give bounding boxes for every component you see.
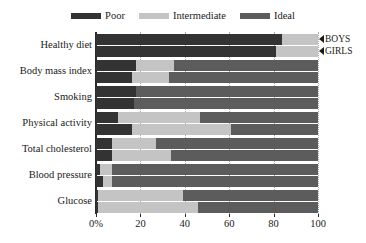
- x-axis: 0%20406080100: [96, 214, 318, 240]
- legend-label: Ideal: [274, 11, 295, 22]
- bar-segment-poor[interactable]: [96, 150, 112, 161]
- bar-boys[interactable]: [96, 86, 318, 97]
- bar-row: [96, 86, 318, 109]
- bar-row: [96, 112, 318, 135]
- bar-segment-ideal[interactable]: [156, 138, 318, 149]
- bar-segment-poor[interactable]: [96, 34, 282, 45]
- bar-girls[interactable]: [96, 72, 318, 83]
- bar-boys[interactable]: [96, 60, 318, 71]
- bar-segment-ideal[interactable]: [169, 72, 318, 83]
- bar-segment-poor[interactable]: [96, 98, 134, 109]
- category-label-healthy-diet: Healthy diet: [0, 40, 92, 51]
- annotation-girls: GIRLS: [319, 47, 352, 57]
- annotation-label: BOYS: [325, 35, 350, 45]
- bar-segment-ideal[interactable]: [174, 60, 318, 71]
- bar-row: [96, 190, 318, 213]
- bar-segment-intermediate[interactable]: [282, 34, 318, 45]
- bar-segment-ideal[interactable]: [112, 176, 318, 187]
- legend-swatch-icon: [240, 13, 270, 19]
- x-tick-mark: [274, 214, 275, 217]
- bar-segment-intermediate[interactable]: [136, 60, 174, 71]
- category-label-glucose: Glucose: [0, 196, 92, 207]
- bar-segment-intermediate[interactable]: [98, 190, 182, 201]
- category-axis-labels: Healthy dietBody mass indexSmokingPhysic…: [0, 32, 92, 214]
- plot-area: [96, 32, 318, 214]
- triangle-left-icon: [319, 35, 324, 43]
- bar-segment-ideal[interactable]: [198, 202, 318, 213]
- x-tick-label: 0%: [89, 219, 103, 230]
- category-label-total-cholesterol: Total cholesterol: [0, 144, 92, 155]
- x-tick-mark: [185, 214, 186, 217]
- category-label-body-mass-index: Body mass index: [0, 66, 92, 77]
- bar-segment-intermediate[interactable]: [112, 150, 172, 161]
- bar-segment-intermediate[interactable]: [132, 72, 170, 83]
- bar-boys[interactable]: [96, 34, 318, 45]
- legend-swatch-icon: [71, 13, 101, 19]
- bar-segment-ideal[interactable]: [183, 190, 318, 201]
- bar-segment-poor[interactable]: [96, 124, 132, 135]
- annotation-label: GIRLS: [325, 47, 352, 57]
- bar-girls[interactable]: [96, 46, 318, 57]
- bar-girls[interactable]: [96, 150, 318, 161]
- bar-boys[interactable]: [96, 138, 318, 149]
- category-label-blood-pressure: Blood pressure: [0, 170, 92, 181]
- bar-segment-poor[interactable]: [96, 46, 276, 57]
- bar-segment-intermediate[interactable]: [276, 46, 318, 57]
- bar-segment-poor[interactable]: [96, 112, 118, 123]
- bar-segment-poor[interactable]: [96, 72, 132, 83]
- bar-segment-intermediate[interactable]: [98, 202, 198, 213]
- bar-boys[interactable]: [96, 164, 318, 175]
- bar-segment-ideal[interactable]: [112, 164, 318, 175]
- bar-segment-poor[interactable]: [96, 60, 136, 71]
- annotation-boys: BOYS: [319, 35, 350, 45]
- stacked-bar-chart: PoorIntermediateIdeal Healthy dietBody m…: [0, 0, 366, 243]
- x-tick-mark: [229, 214, 230, 217]
- bar-segment-poor[interactable]: [96, 176, 103, 187]
- x-tick-mark: [140, 214, 141, 217]
- bar-row: [96, 164, 318, 187]
- bar-segment-intermediate[interactable]: [132, 124, 232, 135]
- bar-row: [96, 138, 318, 161]
- bar-boys[interactable]: [96, 112, 318, 123]
- bar-row: [96, 34, 318, 57]
- legend-label: Poor: [105, 11, 125, 22]
- x-tick-mark: [318, 214, 319, 217]
- x-tick-label: 20: [135, 219, 146, 230]
- bar-segment-intermediate[interactable]: [103, 176, 112, 187]
- category-label-physical-activity: Physical activity: [0, 118, 92, 129]
- triangle-left-icon: [319, 47, 324, 55]
- legend-swatch-icon: [139, 13, 169, 19]
- bar-segment-intermediate[interactable]: [118, 112, 200, 123]
- x-tick-mark: [96, 214, 97, 217]
- bar-girls[interactable]: [96, 176, 318, 187]
- bar-segment-ideal[interactable]: [231, 124, 318, 135]
- legend-item-intermediate[interactable]: Intermediate: [139, 11, 226, 22]
- bar-row: [96, 60, 318, 83]
- bar-segment-poor[interactable]: [96, 138, 112, 149]
- x-tick-label: 80: [268, 219, 279, 230]
- bar-boys[interactable]: [96, 190, 318, 201]
- legend-item-ideal[interactable]: Ideal: [240, 11, 295, 22]
- legend-label: Intermediate: [173, 11, 226, 22]
- bar-girls[interactable]: [96, 98, 318, 109]
- bar-segment-ideal[interactable]: [200, 112, 318, 123]
- bar-segment-poor[interactable]: [96, 86, 136, 97]
- bar-segment-intermediate[interactable]: [112, 138, 156, 149]
- x-tick-label: 40: [180, 219, 191, 230]
- gridline-100: [318, 32, 320, 214]
- bar-segment-intermediate[interactable]: [100, 164, 111, 175]
- chart-legend: PoorIntermediateIdeal: [0, 11, 366, 22]
- bar-segment-ideal[interactable]: [134, 98, 318, 109]
- category-label-smoking: Smoking: [0, 92, 92, 103]
- legend-item-poor[interactable]: Poor: [71, 11, 125, 22]
- bar-segment-ideal[interactable]: [136, 86, 318, 97]
- x-tick-label: 100: [310, 219, 326, 230]
- x-tick-label: 60: [224, 219, 235, 230]
- bar-girls[interactable]: [96, 124, 318, 135]
- bar-girls[interactable]: [96, 202, 318, 213]
- bar-segment-ideal[interactable]: [171, 150, 318, 161]
